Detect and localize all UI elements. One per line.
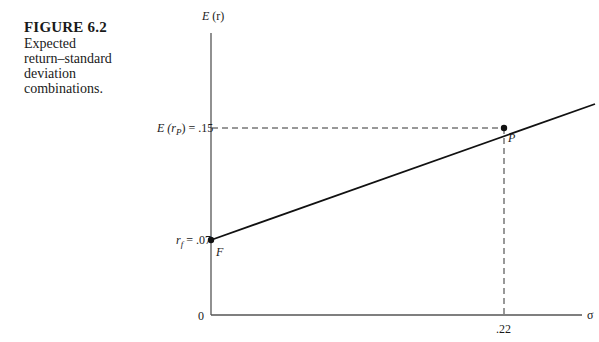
point-p-label: P	[507, 131, 516, 145]
y-axis-title: E(r)	[201, 9, 224, 23]
y-tick-label-rf: rf = .07	[176, 233, 211, 249]
y-tick-label-erp: E (rP) = .15	[156, 121, 213, 137]
point-f-label: F	[215, 245, 224, 259]
point-p-marker	[501, 125, 507, 131]
chart: E(r) σ 0 .22 E (rP) = .15 rf = .07 F P	[0, 0, 599, 342]
origin-label: 0	[198, 309, 204, 323]
x-tick-label-022: .22	[496, 322, 511, 336]
x-axis-title: σ	[587, 308, 594, 322]
capital-allocation-line	[211, 104, 595, 240]
